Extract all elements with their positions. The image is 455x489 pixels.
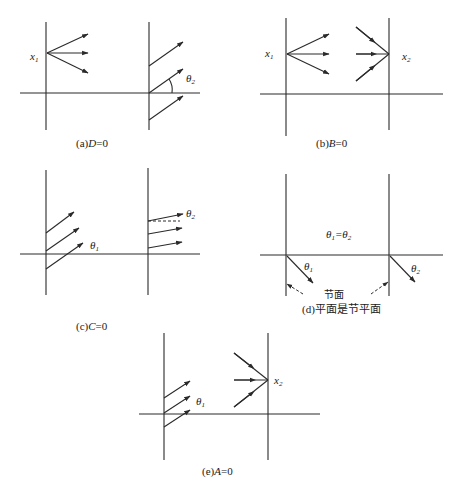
caption-c: (c)C=0	[76, 320, 108, 333]
equation-theta1-equals-theta2: θ1=θ2	[326, 228, 352, 242]
node-plane-label: 节面	[324, 289, 344, 300]
caption-a: (a)D=0	[76, 137, 108, 150]
label-x2: x2	[273, 374, 283, 388]
label-theta1: θ1	[304, 260, 313, 274]
label-theta1: θ1	[90, 239, 99, 253]
panel-a: x1 θ2 (a)D=0	[20, 22, 200, 150]
caption-b: (b)B=0	[316, 137, 348, 150]
panel-b: x1 x2 (b)B=0	[260, 18, 443, 150]
caption-e: (e)A=0	[202, 465, 233, 478]
label-theta2: θ2	[186, 207, 195, 221]
label-theta2: θ2	[186, 72, 195, 86]
caption-d: (d)平面是节平面	[302, 303, 381, 316]
label-x2: x2	[401, 50, 411, 64]
panel-e: θ1 x2 (e)A=0	[139, 333, 320, 478]
label-x1: x1	[264, 47, 273, 61]
label-x1: x1	[29, 50, 38, 64]
radiation-pattern-diagram: x1 θ2 (a)D=0 x1 x2 (b)B=0 θ1 θ2 (c)C=0	[0, 0, 455, 489]
label-theta2: θ2	[411, 262, 420, 276]
label-theta1: θ1	[196, 395, 205, 409]
panel-c: θ1 θ2 (c)C=0	[20, 168, 200, 333]
panel-d: θ1=θ2 θ1 θ2 节面 (d)平面是节平面	[260, 174, 443, 316]
